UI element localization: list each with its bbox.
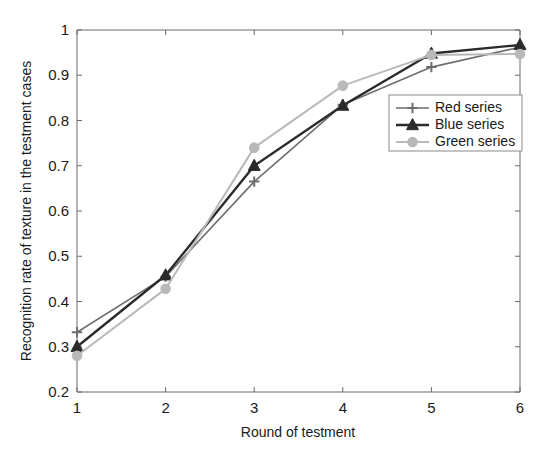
chart-legend: Red seriesBlue seriesGreen series [389,95,522,151]
x-tick-label-3: 4 [339,399,347,416]
legend-item-1[interactable]: Blue series [396,116,504,132]
y-tick-label-7: 0.9 [48,66,69,83]
x-tick-label-5: 6 [516,399,524,416]
x-tick-label-2: 3 [250,399,258,416]
legend-label-2: Green series [435,133,515,149]
data-point-2-4 [427,50,436,59]
x-axis-title: Round of testment [241,424,356,440]
y-tick-label-0: 0.2 [48,383,69,400]
data-point-2-5 [515,49,524,58]
data-point-2-3 [338,81,347,90]
y-tick-label-2: 0.4 [48,293,69,310]
y-tick-label-3: 0.5 [48,247,69,264]
line-chart: 0.20.30.40.50.60.70.80.91123456 Red seri… [0,0,555,455]
y-axis-title: Recognition rate of texture in the testm… [18,61,34,361]
data-point-2-2 [250,143,259,152]
y-tick-label-8: 1 [61,21,69,38]
figure-container: 0.20.30.40.50.60.70.80.91123456 Red seri… [0,0,555,455]
legend-label-0: Red series [435,99,502,115]
y-tick-label-6: 0.8 [48,112,69,129]
legend-label-1: Blue series [435,116,504,132]
data-point-2-0 [72,351,81,360]
data-point-2-1 [161,284,170,293]
y-tick-label-5: 0.7 [48,157,69,174]
y-tick-label-1: 0.3 [48,338,69,355]
data-point-legend-2 [408,137,417,146]
x-tick-label-1: 2 [161,399,169,416]
x-tick-label-4: 5 [427,399,435,416]
x-tick-label-0: 1 [73,399,81,416]
plot-background [77,30,520,392]
y-tick-label-4: 0.6 [48,202,69,219]
